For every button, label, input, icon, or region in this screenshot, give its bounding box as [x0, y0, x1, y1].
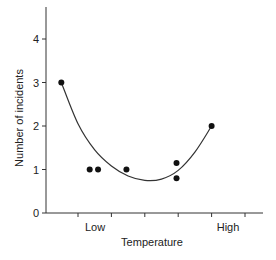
chart-canvas: 01234 LowHigh Temperature Number of inci…: [0, 0, 276, 260]
x-tick-label-high: High: [217, 221, 240, 233]
data-point: [209, 123, 215, 129]
y-tick-label: 3: [33, 77, 39, 89]
y-axis-title: Number of incidents: [13, 69, 25, 167]
data-point: [174, 175, 180, 181]
x-tick-labels: LowHigh: [85, 221, 239, 233]
x-tick-label-low: Low: [85, 221, 105, 233]
data-point: [95, 167, 101, 173]
x-axis-title: Temperature: [121, 236, 183, 248]
data-point: [174, 160, 180, 166]
x-ticks: [78, 213, 245, 217]
data-point: [123, 167, 129, 173]
y-tick-label: 1: [33, 164, 39, 176]
y-tick-label: 4: [33, 33, 39, 45]
data-point: [58, 80, 64, 86]
y-ticks: 01234: [33, 33, 46, 219]
y-tick-label: 0: [33, 207, 39, 219]
y-tick-label: 2: [33, 120, 39, 132]
data-point: [87, 167, 93, 173]
fit-curve: [61, 83, 211, 181]
axes: [46, 7, 263, 213]
